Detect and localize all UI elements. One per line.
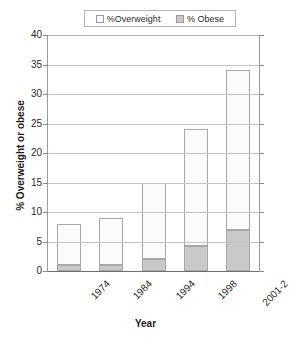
y-axis-tick-left [43,35,48,36]
bar-segment-obese [57,265,81,271]
y-axis-title-holder: % Overweight or obese [0,0,20,343]
y-axis-tick-left [43,153,48,154]
y-axis-tick-left [43,65,48,66]
gridline [48,35,259,36]
gridline [48,94,259,95]
bar-segment-obese [184,246,208,271]
stacked-bar-chart: %Overweight % Obese 0510152025303540 197… [0,0,291,343]
x-axis-tick-label: 1984 [131,278,155,302]
y-axis-tick-right [259,153,264,154]
legend-swatch-overweight-icon [96,15,104,23]
legend-label-overweight: %Overweight [107,14,161,24]
legend-item-overweight: %Overweight [96,14,161,24]
x-axis-tick-label: 1998 [215,278,239,302]
legend-item-obese: % Obese [176,14,224,24]
bar-segment-obese [226,230,250,271]
y-axis-tick-left [43,212,48,213]
bar-segment-obese [99,265,123,271]
y-axis-tick-right [259,124,264,125]
x-axis-title: Year [0,318,291,329]
y-axis-tick-right [259,94,264,95]
y-axis-tick-left [43,183,48,184]
gridline [48,242,259,243]
gridline [48,212,259,213]
gridline [48,183,259,184]
chart-legend: %Overweight % Obese [84,10,236,27]
gridline [48,65,259,66]
y-axis-tick-left [43,94,48,95]
y-axis-title: % Overweight or obese [15,76,26,236]
x-axis-tick-label: 2001-2 [260,278,290,308]
bar-segment-obese [142,259,166,271]
x-axis-tick-label: 1994 [173,278,197,302]
legend-swatch-obese-icon [176,15,184,23]
y-axis-tick-right [259,212,264,213]
gridline [48,153,259,154]
plot-area [47,35,260,272]
bar-segment-overweight [57,224,81,265]
legend-label-obese: % Obese [187,14,224,24]
x-axis-tick-label: 1974 [89,278,113,302]
y-axis-tick-right [259,242,264,243]
bar-segment-overweight [184,129,208,245]
y-axis-tick-right [259,183,264,184]
y-axis-tick-right [259,65,264,66]
y-axis-tick-right [259,35,264,36]
bar-segment-overweight [142,183,166,260]
gridline [48,124,259,125]
y-axis-tick-left [43,242,48,243]
x-axis-tick-labels: 19741984199419982001-2 [47,272,260,317]
y-axis-tick-left [43,124,48,125]
